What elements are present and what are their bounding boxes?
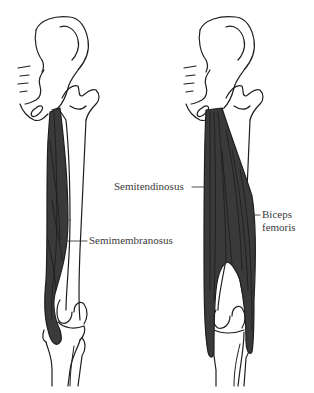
label-biceps-femoris-line1: Biceps [262,208,292,221]
diagram-artwork [0,0,314,393]
label-biceps-femoris-line2: femoris [262,221,296,234]
hamstring-diagram: Semimembranosus Semitendinosus Biceps fe… [0,0,314,393]
label-semitendinosus: Semitendinosus [114,180,184,193]
label-semimembranosus: Semimembranosus [89,234,173,247]
semimembranosus-muscle [45,108,68,344]
